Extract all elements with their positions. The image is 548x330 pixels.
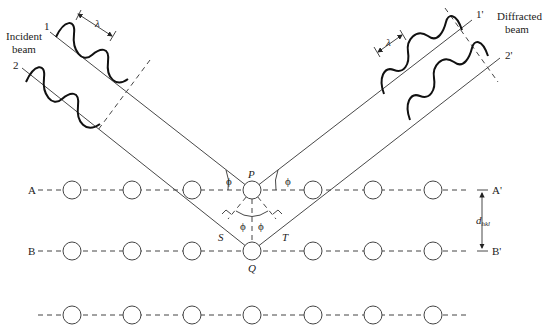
ray-1-label: 1 bbox=[44, 20, 50, 32]
incident-beam-label-1: Incident bbox=[6, 30, 42, 42]
point-t-label: T bbox=[282, 231, 289, 243]
angle-phi-right: ϕ bbox=[285, 175, 291, 187]
incident-ray-2 bbox=[22, 68, 252, 251]
right-angle-t bbox=[273, 210, 282, 214]
incident-beams bbox=[22, 10, 252, 251]
plane-b-label: B bbox=[28, 245, 35, 257]
d-spacing-label: dhkl bbox=[476, 214, 490, 228]
wavelength-label-diffracted: λ bbox=[385, 36, 391, 48]
atom-p bbox=[243, 181, 261, 199]
diffracted-beam-label-2: beam bbox=[505, 23, 529, 35]
ray-2-prime-label: 2' bbox=[505, 49, 513, 61]
point-q-label: Q bbox=[248, 262, 256, 274]
plane-b-prime-label: B' bbox=[492, 245, 501, 257]
diffracted-wavefront bbox=[445, 8, 498, 82]
angle-phi-lower-left: ϕ bbox=[240, 220, 246, 232]
point-s-label: S bbox=[218, 231, 224, 243]
diffracted-ray-2 bbox=[252, 58, 500, 251]
right-angle-s bbox=[222, 210, 231, 214]
incident-wave-2 bbox=[26, 67, 100, 128]
incident-beam-label-2: beam bbox=[12, 43, 36, 55]
ray-2-label: 2 bbox=[13, 59, 19, 71]
point-p-label: P bbox=[247, 168, 255, 180]
diffracted-wave-1 bbox=[382, 16, 462, 94]
wavelength-label-incident: λ bbox=[94, 17, 100, 29]
diffracted-beams bbox=[252, 8, 500, 251]
atom-q bbox=[243, 242, 261, 260]
diffracted-beam-label-1: Diffracted bbox=[497, 10, 542, 22]
bragg-diagram: Incident beam 1 2 λ Diffracted beam 1' 2… bbox=[0, 0, 548, 330]
diffracted-wave-2 bbox=[408, 42, 488, 120]
incident-wavefront bbox=[98, 60, 150, 130]
ray-1-prime-label: 1' bbox=[476, 8, 484, 20]
angle-phi-left: ϕ bbox=[226, 175, 232, 187]
plane-a-label: A bbox=[28, 184, 36, 196]
angle-arc-right bbox=[275, 170, 278, 190]
angle-phi-lower-right: ϕ bbox=[258, 220, 264, 232]
incident-wave-1 bbox=[56, 23, 128, 82]
plane-a-prime-label: A' bbox=[492, 184, 502, 196]
